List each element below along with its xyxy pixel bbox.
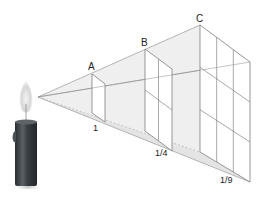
inverse-square-diagram: A B C 1 1/4 1/9 xyxy=(0,0,264,198)
candle-icon xyxy=(12,78,44,191)
intensity-c: 1/9 xyxy=(220,175,233,185)
label-c: C xyxy=(196,13,203,24)
intensity-a: 1 xyxy=(93,123,98,133)
label-a: A xyxy=(88,61,95,72)
label-b: B xyxy=(141,37,148,48)
intensity-b: 1/4 xyxy=(155,148,168,158)
